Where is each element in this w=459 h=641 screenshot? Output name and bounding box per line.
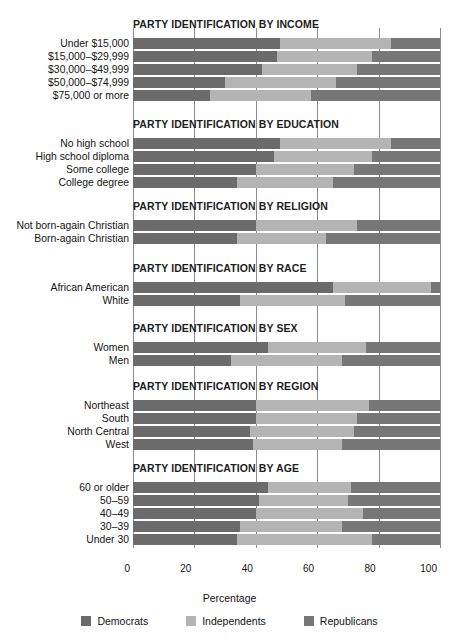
stacked-bar xyxy=(133,295,440,306)
bar-segment-dem xyxy=(133,90,210,101)
stacked-bar xyxy=(133,413,440,424)
bar-segment-ind xyxy=(277,51,372,62)
stacked-bar xyxy=(133,233,440,244)
bar-segment-rep xyxy=(336,77,440,88)
bar-segment-rep xyxy=(311,90,440,101)
x-tick-0: 0 xyxy=(103,563,130,574)
category-label: Not born-again Christian xyxy=(0,220,129,231)
party-identification-chart: PARTY IDENTIFICATION BY INCOMEUnder $15,… xyxy=(0,0,459,641)
bar-segment-ind xyxy=(256,164,354,175)
bar-segment-rep xyxy=(357,413,440,424)
category-label: 60 or older xyxy=(0,482,129,493)
bar-segment-ind xyxy=(231,355,342,366)
bar-segment-ind xyxy=(225,77,336,88)
bar-segment-dem xyxy=(133,164,256,175)
bar-segment-rep xyxy=(366,342,440,353)
bar-segment-ind xyxy=(250,426,354,437)
category-label: Some college xyxy=(0,164,129,175)
legend-label: Democrats xyxy=(97,615,148,627)
section-title: PARTY IDENTIFICATION BY REGION xyxy=(133,380,318,392)
bar-segment-rep xyxy=(363,508,440,519)
bar-segment-rep xyxy=(372,151,440,162)
bar-segment-ind xyxy=(256,400,370,411)
stacked-bar xyxy=(133,64,440,75)
section-title: PARTY IDENTIFICATION BY RACE xyxy=(133,262,307,274)
bar-segment-ind xyxy=(256,508,363,519)
bar-segment-rep xyxy=(372,51,440,62)
stacked-bar xyxy=(133,90,440,101)
bar-segment-ind xyxy=(259,495,348,506)
legend-item: Democrats xyxy=(81,615,148,627)
legend-swatch-icon xyxy=(304,616,314,626)
stacked-bar xyxy=(133,77,440,88)
section-title: PARTY IDENTIFICATION BY RELIGION xyxy=(133,200,328,212)
x-tick-60: 60 xyxy=(287,563,314,574)
category-label: South xyxy=(0,413,129,424)
bar-segment-rep xyxy=(351,482,440,493)
x-tick-80: 80 xyxy=(349,563,376,574)
legend-swatch-icon xyxy=(81,616,91,626)
bar-segment-dem xyxy=(133,508,256,519)
category-label: $50,000–$74,999 xyxy=(0,77,129,88)
bar-segment-dem xyxy=(133,426,250,437)
bar-segment-rep xyxy=(369,400,440,411)
bar-segment-dem xyxy=(133,534,237,545)
x-axis-title: Percentage xyxy=(0,592,459,604)
legend-label: Independents xyxy=(202,615,266,627)
category-label: College degree xyxy=(0,177,129,188)
bar-segment-dem xyxy=(133,295,240,306)
stacked-bar xyxy=(133,138,440,149)
category-label: $15,000–$29,999 xyxy=(0,51,129,62)
section-title: PARTY IDENTIFICATION BY AGE xyxy=(133,462,299,474)
bar-segment-ind xyxy=(210,90,311,101)
stacked-bar xyxy=(133,400,440,411)
bar-segment-dem xyxy=(133,220,256,231)
bar-segment-rep xyxy=(391,138,440,149)
stacked-bar xyxy=(133,426,440,437)
bar-segment-ind xyxy=(256,220,357,231)
category-label: North Central xyxy=(0,426,129,437)
category-label: West xyxy=(0,439,129,450)
bar-segment-ind xyxy=(253,439,342,450)
gridline-100 xyxy=(440,28,441,548)
legend-swatch-icon xyxy=(186,616,196,626)
bar-segment-rep xyxy=(333,177,440,188)
x-tick-40: 40 xyxy=(226,563,253,574)
bar-segment-dem xyxy=(133,439,253,450)
bar-segment-dem xyxy=(133,138,280,149)
section-title: PARTY IDENTIFICATION BY EDUCATION xyxy=(133,118,339,130)
category-label: Men xyxy=(0,355,129,366)
stacked-bar xyxy=(133,38,440,49)
stacked-bar xyxy=(133,51,440,62)
bar-segment-ind xyxy=(256,413,357,424)
category-label: Born-again Christian xyxy=(0,233,129,244)
category-label: Northeast xyxy=(0,400,129,411)
category-label: $75,000 or more xyxy=(0,90,129,101)
bar-segment-dem xyxy=(133,151,274,162)
chart-legend: DemocratsIndependentsRepublicans xyxy=(0,615,459,627)
stacked-bar xyxy=(133,164,440,175)
section-title: PARTY IDENTIFICATION BY SEX xyxy=(133,322,298,334)
stacked-bar xyxy=(133,355,440,366)
bar-segment-rep xyxy=(342,355,440,366)
bar-segment-dem xyxy=(133,38,280,49)
category-label: African American xyxy=(0,282,129,293)
bar-segment-ind xyxy=(237,534,372,545)
bar-segment-ind xyxy=(268,342,366,353)
bar-segment-rep xyxy=(431,282,440,293)
bar-segment-dem xyxy=(133,282,333,293)
legend-item: Republicans xyxy=(304,615,378,627)
bar-segment-rep xyxy=(372,534,440,545)
bar-segment-dem xyxy=(133,342,268,353)
bar-segment-dem xyxy=(133,413,256,424)
stacked-bar xyxy=(133,220,440,231)
bar-segment-dem xyxy=(133,355,231,366)
stacked-bar xyxy=(133,482,440,493)
bar-segment-rep xyxy=(357,64,440,75)
category-label: 30–39 xyxy=(0,521,129,532)
bar-segment-ind xyxy=(274,151,372,162)
bar-segment-rep xyxy=(342,439,440,450)
bar-segment-ind xyxy=(237,233,326,244)
stacked-bar xyxy=(133,439,440,450)
bar-segment-dem xyxy=(133,64,262,75)
